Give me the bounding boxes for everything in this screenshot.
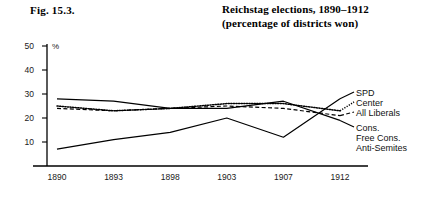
data-series-group xyxy=(57,99,340,149)
x-tick-label-1893: 1893 xyxy=(94,172,134,182)
legend-item-spd: SPD xyxy=(356,88,375,99)
x-tick-label-1903: 1903 xyxy=(207,172,247,182)
x-tick-label-1890: 1890 xyxy=(37,172,77,182)
chart-title-line-1: Reichstag elections, 1890–1912 xyxy=(222,3,437,17)
legend-leader-line-3 xyxy=(340,120,354,127)
chart-title-line-2: (percentage of districts won) xyxy=(222,17,437,31)
y-tick-label-10: 10 xyxy=(14,137,34,147)
y-tick-label-50: 50 xyxy=(14,41,34,51)
figure-root: Fig. 15.3. Reichstag elections, 1890–191… xyxy=(0,0,442,207)
y-tick-label-20: 20 xyxy=(14,113,34,123)
y-tick-marks xyxy=(42,46,47,142)
y-tick-label-40: 40 xyxy=(14,65,34,75)
legend-leader-lines xyxy=(340,92,354,127)
y-tick-label-30: 30 xyxy=(14,89,34,99)
plot-area: % 1020304050 189018931898190319071912 SP… xyxy=(0,36,442,186)
x-tick-label-1912: 1912 xyxy=(320,172,360,182)
legend-leader-line-1 xyxy=(340,102,354,111)
axes-group xyxy=(33,44,368,166)
legend-leader-line-2 xyxy=(340,112,354,116)
figure-number: Fig. 15.3. xyxy=(30,4,75,16)
chart-title: Reichstag elections, 1890–1912 (percenta… xyxy=(222,3,437,30)
x-tick-label-1898: 1898 xyxy=(150,172,190,182)
legend-item-free-cons: Free Cons. xyxy=(356,133,401,144)
legend-item-anti-semites: Anti-Semites xyxy=(356,143,407,154)
series-line-all-liberals xyxy=(57,106,340,116)
legend-leader-line-0 xyxy=(340,92,354,99)
legend-item-cons: Cons. xyxy=(356,123,380,134)
legend-item-center: Center xyxy=(356,98,383,109)
legend-item-all-liberals: All Liberals xyxy=(356,108,400,119)
x-tick-label-1907: 1907 xyxy=(263,172,303,182)
